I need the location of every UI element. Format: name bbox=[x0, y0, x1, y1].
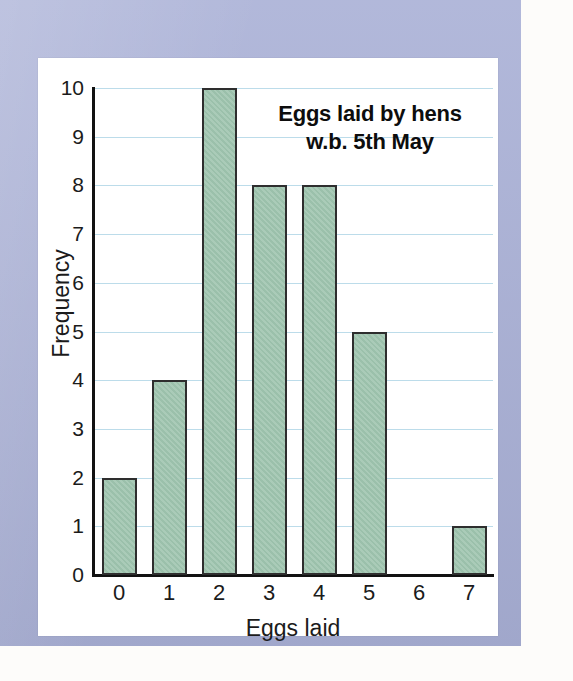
x-tick-label: 3 bbox=[247, 582, 291, 604]
bar-texture bbox=[354, 334, 385, 574]
bar-texture bbox=[454, 528, 485, 573]
y-tick-label: 3 bbox=[52, 418, 84, 439]
y-tick-label: 10 bbox=[52, 77, 84, 98]
y-tick-label: 2 bbox=[52, 467, 84, 488]
bar bbox=[152, 380, 187, 575]
x-tick-label: 4 bbox=[297, 582, 341, 604]
gridline bbox=[93, 332, 493, 333]
gridline bbox=[93, 185, 493, 186]
x-tick-label: 5 bbox=[347, 582, 391, 604]
bar bbox=[202, 88, 237, 575]
x-tick-label: 7 bbox=[447, 582, 491, 604]
y-axis-line bbox=[92, 87, 95, 576]
chart-title-line-1: Eggs laid by hens bbox=[252, 100, 488, 128]
page-root: 012345678910 01234567 Eggs laid by hens … bbox=[0, 0, 573, 681]
bar bbox=[352, 332, 387, 576]
gridline bbox=[93, 283, 493, 284]
bar-texture bbox=[254, 187, 285, 573]
bar-texture bbox=[204, 90, 235, 573]
bar bbox=[302, 185, 337, 575]
bar bbox=[252, 185, 287, 575]
bar bbox=[452, 526, 487, 575]
bar-texture bbox=[304, 187, 335, 573]
chart-card: 012345678910 01234567 Eggs laid by hens … bbox=[38, 58, 498, 636]
x-axis-title: Eggs laid bbox=[92, 615, 494, 642]
x-tick-label: 6 bbox=[397, 582, 441, 604]
x-tick-label: 2 bbox=[197, 582, 241, 604]
y-tick-label: 8 bbox=[52, 174, 84, 195]
gridline bbox=[93, 88, 493, 89]
x-tick-label: 0 bbox=[97, 582, 141, 604]
chart-title: Eggs laid by hens w.b. 5th May bbox=[252, 100, 488, 156]
bar-chart: 012345678910 01234567 Eggs laid by hens … bbox=[38, 58, 498, 636]
bar-texture bbox=[154, 382, 185, 573]
y-axis-title: Frequency bbox=[48, 219, 75, 389]
x-tick-label: 1 bbox=[147, 582, 191, 604]
y-tick-label: 9 bbox=[52, 126, 84, 147]
bar-texture bbox=[104, 480, 135, 573]
chart-title-line-2: w.b. 5th May bbox=[252, 128, 488, 156]
gridline bbox=[93, 234, 493, 235]
bar bbox=[102, 478, 137, 575]
y-tick-label: 0 bbox=[52, 564, 84, 585]
y-tick-label: 1 bbox=[52, 515, 84, 536]
